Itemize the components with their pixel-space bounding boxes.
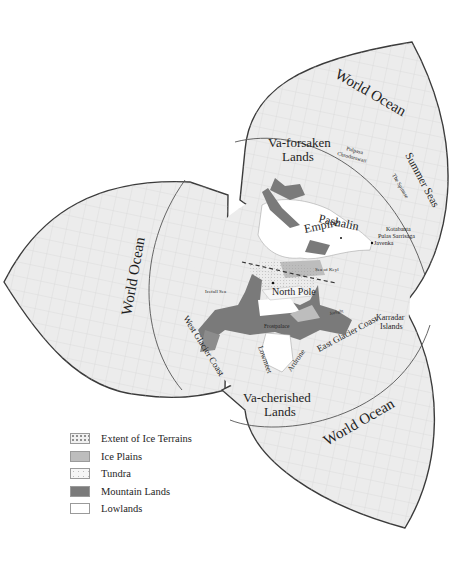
legend-item-tundra: Tundra bbox=[70, 465, 192, 483]
north-pole-marker bbox=[272, 282, 275, 285]
ice-extent-swatch-icon bbox=[70, 433, 90, 444]
pulas-sarrisaga-label: Pulas Sarrisaga bbox=[378, 233, 415, 239]
karradar-label-2: Islands bbox=[380, 322, 403, 331]
icefall-sea-label: Icefall Sea bbox=[205, 289, 227, 294]
map-legend: Extent of Ice Terrains Ice Plains Tundra… bbox=[70, 430, 192, 518]
legend-label: Extent of Ice Terrains bbox=[101, 433, 192, 444]
va-forsaken-label-1: Va-forsaken bbox=[268, 135, 331, 150]
legend-label: Tundra bbox=[101, 468, 131, 479]
kotabanta-label: Kotabanta bbox=[386, 226, 411, 232]
legend-item-mountain-lands: Mountain Lands bbox=[70, 483, 192, 501]
legend-label: Ice Plains bbox=[101, 451, 142, 462]
lowlands-swatch-icon bbox=[70, 503, 90, 514]
frostpalace-label: Frostpalace bbox=[264, 323, 290, 329]
legend-label: Mountain Lands bbox=[101, 486, 170, 497]
javenka-label: Javenka bbox=[374, 240, 394, 246]
va-cherished-label-2: Lands bbox=[264, 404, 296, 419]
legend-item-ice-extent: Extent of Ice Terrains bbox=[70, 430, 192, 448]
legend-item-ice-plains: Ice Plains bbox=[70, 448, 192, 466]
va-forsaken-label-2: Lands bbox=[282, 149, 314, 164]
va-cherished-label-1: Va-cherished bbox=[243, 390, 311, 405]
ice-plains-swatch-icon bbox=[70, 451, 90, 462]
sea-of-keyl-label: Sea of Keyl bbox=[315, 267, 339, 272]
mountain-swatch-icon bbox=[70, 486, 90, 497]
tundra-swatch-icon bbox=[70, 468, 90, 479]
north-pole-label: North Pole bbox=[272, 286, 316, 297]
legend-item-lowlands: Lowlands bbox=[70, 500, 192, 518]
legend-label: Lowlands bbox=[101, 503, 142, 514]
karradar-label-1: Karradar bbox=[376, 313, 405, 322]
